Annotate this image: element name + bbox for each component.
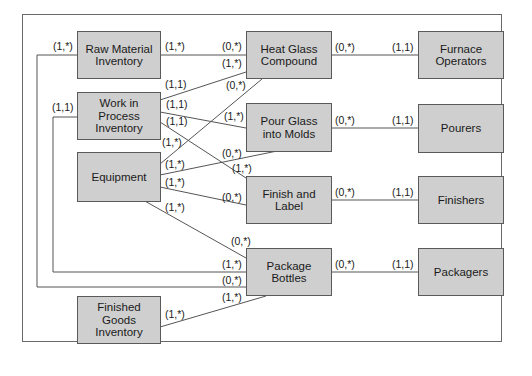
card-hgc-from-rmi: (0,*) xyxy=(222,40,242,52)
card-pgm-to-pourers: (0,*) xyxy=(335,114,355,126)
card-fl-to-finishers: (0,*) xyxy=(335,186,355,198)
entity-finish-and-label: Finish and Label xyxy=(246,176,332,224)
card-hgc-to-fo: (0,*) xyxy=(335,41,355,53)
card-eq-to-pb: (1,*) xyxy=(165,201,185,213)
entity-heat-glass-compound: Heat Glass Compound xyxy=(246,31,332,79)
entity-packagers: Packagers xyxy=(418,248,504,296)
card-pb-from-fgi: (1,*) xyxy=(222,291,242,303)
card-eq-to-pgm: (1,*) xyxy=(165,158,185,170)
entity-pourers: Pourers xyxy=(418,104,504,153)
entity-equipment: Equipment xyxy=(77,152,161,202)
entity-raw-material-inventory: Raw Material Inventory xyxy=(77,31,161,79)
card-hgc-from-wip: (1,*) xyxy=(222,57,242,69)
card-fgi-to-pb: (1,*) xyxy=(165,308,185,320)
card-pb-to-packagers: (0,*) xyxy=(335,258,355,270)
card-pgm-from-wip: (1,*) xyxy=(224,110,244,122)
card-eq-to-fl: (1,*) xyxy=(165,176,185,188)
card-pb-from-wip: (1,*) xyxy=(222,258,242,270)
card-rmi-to-hgc: (1,*) xyxy=(165,40,185,52)
card-finishers-from-fl: (1,1) xyxy=(392,186,414,198)
entity-work-in-process-inventory: Work in Process Inventory xyxy=(77,92,161,140)
card-fl-from-wip: (1,*) xyxy=(232,162,252,174)
entity-finished-goods-inventory: Finished Goods Inventory xyxy=(77,296,161,344)
card-packagers-from-pb: (1,1) xyxy=(392,258,414,270)
card-rmi-left: (1,*) xyxy=(53,40,73,52)
card-pb-from-rmi: (0,*) xyxy=(222,274,242,286)
card-wip-left: (1,1) xyxy=(52,101,74,113)
card-wip-to-pgm: (1,1) xyxy=(166,98,188,110)
entity-package-bottles: Package Bottles xyxy=(246,248,332,296)
card-pourers-from-pgm: (1,1) xyxy=(392,114,414,126)
entity-furnace-operators: Furnace Operators xyxy=(418,31,504,79)
card-pb-from-eq: (0,*) xyxy=(231,235,251,247)
card-eq-to-hgc: (1,*) xyxy=(162,136,182,148)
card-wip-to-hgc: (1,1) xyxy=(165,78,187,90)
card-pgm-from-eq: (0,*) xyxy=(222,147,242,159)
card-wip-to-fl: (1,1) xyxy=(166,115,188,127)
entity-pour-glass-into-molds: Pour Glass into Molds xyxy=(246,103,332,152)
entity-finishers: Finishers xyxy=(418,176,504,224)
card-hgc-from-eq: (0,*) xyxy=(226,79,246,91)
card-fo-from-hgc: (1,1) xyxy=(392,41,414,53)
card-fl-from-eq: (0,*) xyxy=(222,191,242,203)
